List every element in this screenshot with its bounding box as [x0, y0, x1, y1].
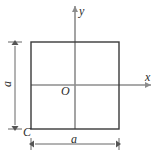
y-axis-label: y	[79, 5, 84, 17]
x-axis-label: x	[145, 71, 150, 83]
corner-label: C	[23, 126, 31, 138]
origin-label: O	[61, 85, 70, 97]
vertical-dimension-label: a	[1, 81, 13, 87]
horizontal-dimension-label: a	[71, 133, 77, 145]
square-cross-section-figure: y x O C a a	[0, 0, 161, 157]
